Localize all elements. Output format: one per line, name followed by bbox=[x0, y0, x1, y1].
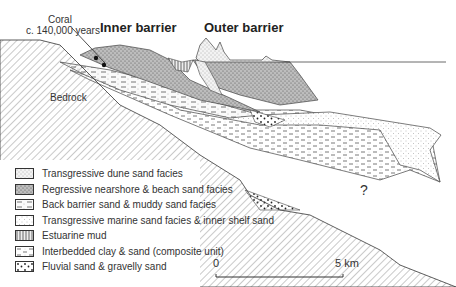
inner-barrier-label: Inner barrier bbox=[100, 20, 177, 35]
legend-item: Fluvial sand & gravelly sand bbox=[15, 259, 274, 275]
interbedded-swatch bbox=[15, 246, 34, 257]
coral-label: Coral bbox=[48, 14, 72, 25]
outer-barrier-label: Outer barrier bbox=[204, 20, 283, 35]
legend-item: Interbedded clay & sand (composite unit) bbox=[15, 244, 274, 260]
legend-item: Estuarine mud bbox=[15, 228, 274, 244]
regressive-nearshore-swatch bbox=[15, 184, 34, 195]
legend-item: Transgressive dune sand facies bbox=[15, 166, 274, 182]
back-barrier-swatch bbox=[15, 199, 34, 210]
legend-item: Regressive nearshore & beach sand facies bbox=[15, 182, 274, 198]
transgressive-dune-swatch bbox=[15, 168, 34, 179]
coral-marker bbox=[94, 56, 98, 60]
fluvial-swatch bbox=[15, 261, 34, 272]
transgressive-marine-swatch bbox=[15, 215, 34, 226]
legend: Transgressive dune sand facies Regressiv… bbox=[15, 166, 274, 275]
dune-unit bbox=[196, 38, 290, 62]
coral-marker bbox=[102, 63, 106, 67]
bedrock-label: Bedrock bbox=[50, 92, 87, 103]
scale-end-label: 5 km bbox=[335, 257, 359, 269]
legend-item: Back barrier sand & muddy sand facies bbox=[15, 197, 274, 213]
estuarine-mud-swatch bbox=[15, 230, 34, 241]
legend-item: Transgressive marine sand facies & inner… bbox=[15, 213, 274, 229]
unknown-marker: ? bbox=[360, 182, 368, 198]
scale-start-label: 0 bbox=[213, 257, 219, 269]
coral-age-label: c. 140,000 years bbox=[26, 25, 100, 36]
